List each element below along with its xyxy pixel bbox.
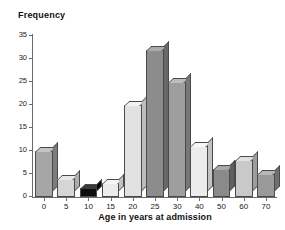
x-tick-mark xyxy=(199,197,200,201)
x-tick-label: 50 xyxy=(212,202,232,211)
x-tick-mark xyxy=(88,197,89,201)
x-tick-label: 20 xyxy=(123,202,143,211)
y-tick-label: 20 xyxy=(19,100,27,108)
y-tick-label: 0 xyxy=(23,192,27,200)
x-tick-label: 15 xyxy=(101,202,121,211)
x-tick-mark xyxy=(133,197,134,201)
y-tick-label: 5 xyxy=(23,169,27,177)
x-tick-label: 30 xyxy=(167,202,187,211)
bar-side-face xyxy=(275,165,280,191)
bar-15 xyxy=(102,183,120,197)
y-tick-label: 25 xyxy=(19,77,27,85)
y-tick-label: 35 xyxy=(19,31,27,39)
plot-area xyxy=(33,36,277,197)
histogram-chart: Frequency 05101520253035 051015202530405… xyxy=(0,0,285,230)
bar-40 xyxy=(190,146,208,197)
x-tick-label: 25 xyxy=(145,202,165,211)
x-tick-label: 0 xyxy=(34,202,54,211)
x-tick-label: 5 xyxy=(56,202,76,211)
bar-10 xyxy=(80,188,98,197)
x-tick-mark xyxy=(177,197,178,201)
x-tick-mark xyxy=(111,197,112,201)
x-tick-label: 60 xyxy=(234,202,254,211)
x-tick-mark xyxy=(155,197,156,201)
bar-25 xyxy=(146,50,164,197)
y-axis-title: Frequency xyxy=(18,10,65,20)
x-tick-label: 10 xyxy=(78,202,98,211)
bar-50 xyxy=(213,169,231,197)
x-tick-label: 40 xyxy=(189,202,209,211)
y-tick-label: 15 xyxy=(19,123,27,131)
bar-30 xyxy=(168,82,186,197)
x-tick-mark xyxy=(266,197,267,201)
bar-0 xyxy=(35,151,53,197)
bar-60 xyxy=(235,160,253,197)
y-tick-label: 10 xyxy=(19,146,27,154)
bar-70 xyxy=(257,174,275,197)
bar-5 xyxy=(57,179,75,197)
x-axis-title: Age in years at admission xyxy=(33,212,277,222)
bar-20 xyxy=(124,105,142,197)
y-tick-label: 30 xyxy=(19,54,27,62)
x-tick-mark xyxy=(44,197,45,201)
x-tick-mark xyxy=(244,197,245,201)
x-tick-label: 70 xyxy=(256,202,276,211)
x-tick-mark xyxy=(66,197,67,201)
x-tick-mark xyxy=(222,197,223,201)
